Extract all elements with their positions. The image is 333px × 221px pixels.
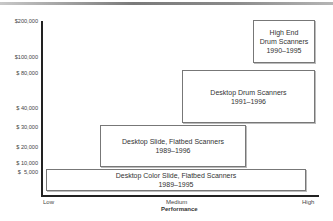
y-tick-label: $ 30,000 <box>16 124 38 130</box>
y-tick-label: $100,000 <box>15 54 38 60</box>
y-tick-label: $200,000 <box>15 18 38 24</box>
x-axis <box>41 195 319 197</box>
box-years: 1991–1996 <box>231 97 266 106</box>
box-label: Desktop Color Slide, Flatbed Scanners <box>116 171 237 180</box>
box-high-end-drum-scanners: High End Drum Scanners 1990–1995 <box>253 20 315 63</box>
box-years: 1989–1996 <box>155 146 190 155</box>
box-label: High End <box>270 28 299 37</box>
box-label: Drum Scanners <box>260 37 309 46</box>
box-years: 1989–1995 <box>158 180 193 189</box>
y-tick-label: $ 5,000 <box>18 169 38 175</box>
y-tick-label: $ 10,000 <box>16 160 38 166</box>
box-years: 1990–1995 <box>266 46 301 55</box>
box-label: Desktop Slide, Flatbed Scanners <box>122 137 224 146</box>
y-axis <box>41 21 43 197</box>
x-axis-title: Performance <box>161 206 198 213</box>
scanner-price-performance-chart: $200,000 $100,000 $ 80,000 $ 40,000 $ 30… <box>0 0 333 221</box>
box-desktop-slide-flatbed-scanners: Desktop Slide, Flatbed Scanners 1989–199… <box>100 125 246 167</box>
y-tick-label: $ 40,000 <box>16 105 38 111</box>
x-tick-medium: Medium <box>166 199 187 206</box>
box-label: Desktop Drum Scanners <box>210 88 286 97</box>
x-tick-low: Low <box>43 199 54 206</box>
x-tick-high: High <box>302 199 314 206</box>
y-tick-label: $ 80,000 <box>16 70 38 76</box>
box-desktop-color-slide-flatbed-scanners: Desktop Color Slide, Flatbed Scanners 19… <box>46 169 306 191</box>
y-tick-label: $ 20,000 <box>16 144 38 150</box>
box-desktop-drum-scanners: Desktop Drum Scanners 1991–1996 <box>182 70 315 123</box>
